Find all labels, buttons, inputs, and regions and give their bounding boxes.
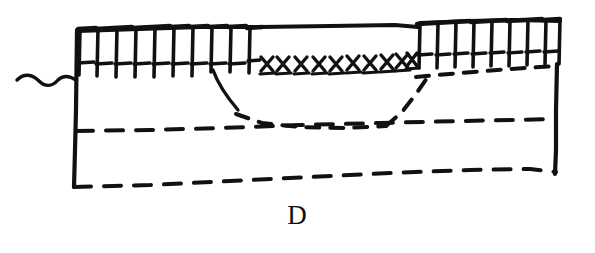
x-mark	[294, 57, 309, 74]
hatch-mark	[114, 27, 132, 77]
x-mark	[380, 55, 395, 72]
hatch-mark	[247, 27, 262, 73]
hatch-mark	[228, 26, 246, 72]
x-mark	[276, 57, 291, 74]
basin-ascent-right-line	[386, 78, 427, 126]
hatch-mark	[435, 22, 452, 68]
x-mark	[363, 56, 378, 73]
left-vertical-boundary-line	[74, 30, 77, 187]
hatch-mark	[190, 26, 208, 76]
hatch-mark	[489, 20, 506, 66]
hatch-mark	[209, 26, 227, 72]
x-mark	[312, 57, 327, 74]
x-symbol-row	[260, 53, 419, 74]
hatch-mark	[559, 20, 560, 64]
lower-bed-boundary-line	[74, 169, 556, 187]
hatch-mark	[525, 19, 542, 65]
left-wavy-lead-in-line	[17, 75, 76, 85]
hatch-mark	[507, 20, 524, 66]
x-mark	[346, 56, 361, 73]
x-mark	[329, 57, 344, 74]
figure-label-d: D	[0, 202, 595, 229]
right-hatch-row	[417, 19, 560, 68]
figure-container: D	[0, 0, 595, 253]
hatch-mark	[78, 28, 96, 75]
hatch-mark	[453, 21, 470, 67]
hatch-mark	[133, 27, 151, 77]
hatch-mark	[417, 23, 434, 68]
hatch-mark	[152, 26, 170, 77]
hatch-mark	[96, 28, 114, 76]
x-mark	[260, 57, 275, 74]
hatch-mark	[471, 21, 488, 67]
left-hatch-row	[78, 26, 262, 77]
basin-descent-left-line	[213, 70, 238, 110]
hatch-mark	[171, 26, 189, 76]
